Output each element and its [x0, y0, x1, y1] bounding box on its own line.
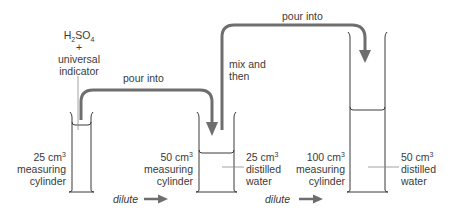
cylinder-100-contents2: water: [401, 175, 436, 187]
cylinder-100-volume: 100 cm3: [285, 151, 345, 163]
dilute-label-2: dilute: [265, 193, 290, 205]
cylinder-25-shape: [69, 112, 94, 192]
cylinder-50-contents-volume: 25 cm3: [246, 151, 281, 163]
reagent-formula: H2SO4: [57, 29, 101, 41]
cylinder-50-volume: 50 cm3: [138, 151, 193, 163]
pour-into-label-1: pour into: [123, 72, 164, 84]
dilute-arrow-2-shape: [299, 195, 323, 204]
mix-line2: then: [229, 70, 266, 82]
reagent-plus: +: [57, 41, 101, 53]
cylinder-100-contents-label: 50 cm3 distilled water: [401, 151, 436, 187]
dilution-diagram: H2SO4 + universal indicator pour into po…: [0, 0, 454, 215]
cylinder-50-contents-label: 25 cm3 distilled water: [246, 151, 281, 187]
cylinder-50-type2: cylinder: [138, 175, 193, 187]
cylinder-25-volume: 25 cm3: [10, 151, 66, 163]
cylinder-25-type1: measuring: [10, 163, 66, 175]
cylinder-25-label: 25 cm3 measuring cylinder: [10, 151, 66, 187]
mix-line1: mix and: [229, 58, 266, 70]
mix-and-then-label: mix and then: [229, 58, 266, 82]
dilute-arrow-1-shape: [144, 195, 168, 204]
reagent-indicator-line1: universal: [57, 53, 101, 65]
cylinder-100-contents-volume: 50 cm3: [401, 151, 436, 163]
cylinder-100-label: 100 cm3 measuring cylinder: [285, 151, 345, 187]
cylinder-100-type2: cylinder: [285, 175, 345, 187]
pour-into-label-2: pour into: [282, 10, 323, 22]
cylinder-50-type1: measuring: [138, 163, 193, 175]
reagent-label: H2SO4 + universal indicator: [57, 29, 101, 77]
cylinder-50-contents1: distilled: [246, 163, 281, 175]
reagent-indicator-line2: indicator: [57, 65, 101, 77]
cylinder-50-label: 50 cm3 measuring cylinder: [138, 151, 193, 187]
cylinder-25-type2: cylinder: [10, 175, 66, 187]
cylinder-50-contents2: water: [246, 175, 281, 187]
dilute-label-1: dilute: [113, 193, 138, 205]
cylinder-100-type1: measuring: [285, 163, 345, 175]
cylinder-100-contents1: distilled: [401, 163, 436, 175]
